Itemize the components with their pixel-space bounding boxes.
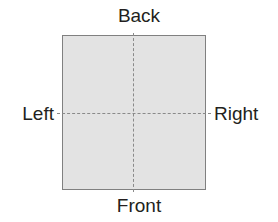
orientation-diagram: Back Left Right Front <box>0 0 278 222</box>
label-back: Back <box>0 6 278 25</box>
label-left: Left <box>6 104 54 123</box>
label-front: Front <box>0 196 278 215</box>
label-right: Right <box>214 104 258 123</box>
horizontal-center-axis-line <box>57 113 211 114</box>
